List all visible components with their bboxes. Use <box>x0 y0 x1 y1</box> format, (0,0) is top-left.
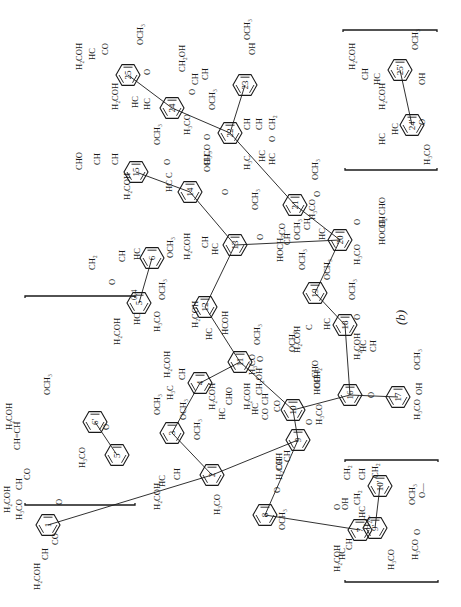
atom-label: CH₂ <box>87 255 97 270</box>
atom-label: CH <box>344 538 354 550</box>
atom-label: H₃CO <box>212 494 222 515</box>
atom-label: HC <box>142 98 152 110</box>
atom-label: OCH₃ <box>207 89 217 110</box>
atom-label: HC <box>132 313 142 325</box>
atom-label: HC <box>257 150 267 162</box>
atom-label: CHO <box>74 152 84 170</box>
atom-label: CO <box>272 400 282 412</box>
atom-label: OCH₃ <box>297 249 307 270</box>
atom-label: HC <box>217 408 227 420</box>
atom-label: OCH₃ <box>42 374 52 395</box>
atom-label: CH₂OH <box>177 45 187 72</box>
atom-label: H₂COH <box>74 43 84 70</box>
atom-label: H₂COH <box>112 318 122 345</box>
ring-19: 19 <box>303 283 327 304</box>
atom-label: HC <box>210 243 220 255</box>
ring-number: 11 <box>235 358 245 367</box>
atom-label: HCOH <box>220 311 230 335</box>
atom-label: CH <box>242 118 252 130</box>
atom-label: OCH₃ <box>412 349 422 370</box>
atom-label: O <box>366 392 376 398</box>
atom-label: CH₂ <box>267 115 277 130</box>
ring-10: 10 <box>281 400 305 421</box>
atom-label: C <box>164 172 174 178</box>
atom-label: HC <box>164 180 174 192</box>
atom-label: HC <box>322 318 332 330</box>
atom-label: HC <box>130 96 140 108</box>
atom-label: H₃C <box>165 385 175 400</box>
atom-label: OCH₃ <box>407 484 417 505</box>
ring-number: 5' <box>112 452 122 459</box>
atom-label: HC <box>390 123 400 135</box>
ring-number: 6' <box>90 419 100 426</box>
atom-label: OH <box>414 383 424 395</box>
atom-label: OCH₃ <box>410 29 420 50</box>
ring-number: 23 <box>240 80 250 90</box>
atom-label: OCH₃ <box>192 419 202 440</box>
atom-label: O <box>162 159 172 165</box>
ring-number: 2 <box>207 473 217 478</box>
ring-number: 21 <box>290 201 300 210</box>
atom-label: O <box>304 419 314 425</box>
ring-number: 1 <box>43 523 53 528</box>
atom-label: CH <box>360 68 370 80</box>
atom-label: H₂COH <box>32 563 42 590</box>
atom-label: OCH₃ <box>252 324 262 345</box>
atom-label: O <box>142 69 152 75</box>
ring-23: 23 <box>233 75 257 96</box>
atom-label: O <box>352 314 362 320</box>
ring-25: 25 <box>116 65 140 86</box>
atom-label: O— <box>417 483 427 498</box>
ring-number: 10' <box>375 480 385 491</box>
ring-number: 24 <box>167 103 177 113</box>
ring-number: 19 <box>310 288 320 298</box>
atom-label: H₃CO <box>422 144 432 165</box>
figure-caption: (b) <box>393 310 408 325</box>
atom-label: O <box>187 89 197 95</box>
atom-label: O <box>332 504 342 510</box>
atom-label: HC <box>357 506 367 518</box>
atom-label: CO <box>22 468 32 480</box>
atom-label: H₃CO <box>152 311 162 332</box>
ring-number: 25 <box>123 70 133 80</box>
atom-label: O <box>54 499 64 505</box>
atom-label: CO <box>277 223 287 235</box>
ring-number: 16 <box>345 390 355 400</box>
ring-3: 3 <box>160 423 184 444</box>
atom-label: CH₂ <box>370 463 380 478</box>
ring-1: 1 <box>36 515 60 536</box>
atom-label: O <box>255 234 265 240</box>
atom-label: OH <box>247 43 257 55</box>
ring-number: 15 <box>131 167 141 177</box>
atom-label: H₃CO <box>386 549 396 570</box>
atom-label: O <box>412 529 422 535</box>
atom-label: CH <box>377 216 387 228</box>
atom-label: H₃CO <box>182 114 192 135</box>
atom-label: CH <box>190 73 200 85</box>
ring-number: 18 <box>340 320 350 330</box>
atom-label: HC <box>204 328 214 340</box>
atom-label: HC <box>267 153 277 165</box>
atom-label: CHO <box>224 387 234 405</box>
bond-lines <box>48 70 412 530</box>
lignin-structure-diagram: 1234567891011121314151617181920212223242… <box>0 0 461 607</box>
atom-label: CH <box>117 250 127 262</box>
ring-number: 8 <box>260 512 270 517</box>
atom-label: O <box>352 219 362 225</box>
atom-label: CH <box>282 450 292 462</box>
atom-label: HC <box>377 133 387 145</box>
ring-21: 21 <box>283 195 307 216</box>
atom-label: OCH₃ <box>152 124 162 145</box>
atom-label: OCH₃ <box>178 399 188 420</box>
atom-label: CH₂OH <box>254 368 264 395</box>
atom-label: C <box>304 324 314 330</box>
atom-label: CH <box>254 118 264 130</box>
ring-24: 24 <box>160 98 184 119</box>
atom-label: OCH₃ <box>277 509 287 530</box>
atom-label: OCH₃ <box>292 219 302 240</box>
atom-label: H₂COH <box>162 351 172 378</box>
atom-label: OCH₃ <box>157 279 167 300</box>
atom-label: CH <box>357 468 367 480</box>
atom-label: CH <box>200 68 210 80</box>
atom-label: H₂COH <box>182 233 192 260</box>
